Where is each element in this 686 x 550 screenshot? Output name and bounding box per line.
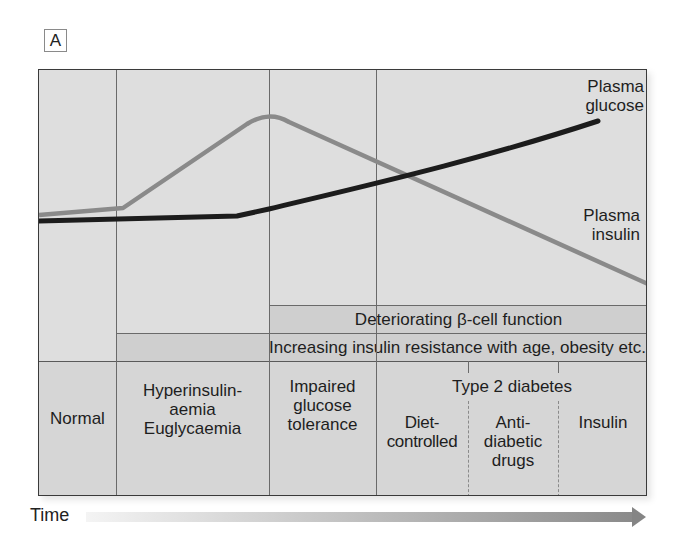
insulin-curve [39, 116, 647, 284]
tick-drugs-insulin [558, 361, 559, 373]
stage-impaired-glucose-tolerance: Impaired glucose tolerance [269, 377, 376, 434]
stage-type2-diabetes: Type 2 diabetes [376, 377, 647, 396]
stage-normal: Normal [39, 409, 116, 428]
insulin-resistance-band: Increasing insulin resistance with age, … [116, 333, 647, 361]
beta-cell-band-label: Deteriorating β-cell function [355, 310, 562, 329]
time-arrow-shaft [86, 512, 634, 522]
time-axis-label: Time [30, 505, 69, 526]
glucose-label: Plasma glucose [585, 77, 644, 115]
stage-hyperinsulinaemia: Hyperinsulin- aemia Euglycaemia [116, 381, 269, 438]
insulin-label: Plasma insulin [583, 206, 640, 244]
stage-insulin: Insulin [558, 413, 647, 432]
stage-diet-controlled: Diet- controlled [376, 413, 468, 451]
chart-frame: Deteriorating β-cell function Increasing… [38, 69, 647, 496]
stage-anti-diabetic-drugs: Anti- diabetic drugs [468, 413, 558, 470]
tick-diet-drugs [468, 361, 469, 373]
beta-cell-band: Deteriorating β-cell function [269, 305, 647, 333]
insulin-resistance-band-label: Increasing insulin resistance with age, … [269, 338, 646, 357]
time-arrow-head-icon [632, 507, 646, 527]
panel-label: A [44, 29, 67, 52]
curves-svg [39, 70, 647, 305]
